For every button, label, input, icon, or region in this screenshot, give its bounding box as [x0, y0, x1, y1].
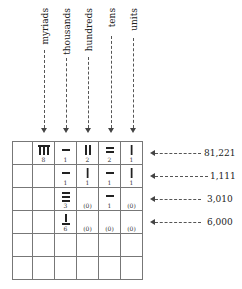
dashed-line	[66, 58, 67, 128]
grid-cell	[77, 234, 99, 257]
column-label-hundreds: hundreds	[84, 8, 94, 51]
grid-cell-units: 1	[121, 165, 143, 188]
grid-cell	[13, 257, 33, 280]
grid-cell-tens: 1	[99, 188, 121, 211]
rod-numeral-1-vertical-icon	[130, 168, 133, 178]
rod-numeral-8-icon	[38, 145, 50, 155]
digit-label: 8	[33, 157, 54, 163]
dashed-line	[111, 36, 112, 128]
grid-cell-myriads	[33, 188, 55, 211]
column-label-tens: tens	[107, 8, 117, 27]
grid-cell	[33, 257, 55, 280]
grid-cell	[99, 234, 121, 257]
rod-numeral-2-horizontal-icon	[106, 145, 114, 155]
grid-cell-units: (0)	[121, 188, 143, 211]
grid-cell	[77, 257, 99, 280]
column-label-thousands: thousands	[62, 8, 72, 55]
row-value-label: 81,221	[204, 148, 236, 158]
digit-label: (0)	[77, 226, 98, 232]
rod-numeral-1-vertical-icon	[130, 145, 133, 155]
digit-label: (0)	[99, 226, 120, 232]
grid-cell-hundreds: 1	[77, 165, 99, 188]
counting-board-grid: 8 1 2 2 1	[12, 141, 143, 280]
grid-row: 3 (0) 1 (0)	[13, 188, 143, 211]
grid-cell-tens: (0)	[99, 211, 121, 234]
grid-cell-thousands: 3	[55, 188, 77, 211]
digit-label: 3	[55, 203, 76, 209]
digit-label: 1	[99, 203, 120, 209]
rod-numeral-1-horizontal-icon	[106, 191, 114, 201]
digit-label: (0)	[121, 226, 142, 232]
digit-label: 1	[55, 157, 76, 163]
grid-cell	[13, 211, 33, 234]
grid-cell-thousands: 1	[55, 165, 77, 188]
grid-cell-myriads	[33, 211, 55, 234]
dashed-line	[44, 50, 45, 128]
rod-numeral-6-icon	[62, 214, 70, 225]
grid-cell	[121, 234, 143, 257]
rod-numeral-3-horizontal-icon	[62, 191, 70, 202]
grid-cell-thousands: 1	[55, 142, 77, 165]
row-value-label: 3,010	[207, 194, 233, 204]
grid-cell-units: 1	[121, 142, 143, 165]
rod-numeral-1-horizontal-icon	[62, 145, 70, 155]
grid-cell-hundreds: 2	[77, 142, 99, 165]
grid-row: 1 1 1 1	[13, 165, 143, 188]
grid-cell	[99, 257, 121, 280]
grid-cell-hundreds: (0)	[77, 188, 99, 211]
digit-label: 1	[55, 180, 76, 186]
rod-numeral-2-vertical-icon	[85, 145, 91, 155]
grid-cell	[13, 142, 33, 165]
grid-cell	[55, 234, 77, 257]
digit-label: 1	[77, 180, 98, 186]
arrow-down-icon	[41, 128, 47, 133]
grid-cell-tens: 2	[99, 142, 121, 165]
grid-cell	[33, 234, 55, 257]
grid-cell	[13, 188, 33, 211]
rod-numeral-1-vertical-icon	[86, 168, 89, 178]
arrow-down-icon	[85, 128, 91, 133]
digit-label: 1	[121, 180, 142, 186]
dashed-line	[133, 38, 134, 128]
grid-cell-hundreds: (0)	[77, 211, 99, 234]
digit-label: 1	[121, 157, 142, 163]
arrow-down-icon	[130, 128, 136, 133]
grid-cell	[13, 234, 33, 257]
grid-cell	[13, 165, 33, 188]
dashed-line	[155, 199, 201, 200]
row-value-label: 1,111	[210, 171, 236, 181]
dashed-line	[88, 57, 89, 128]
grid-cell-units: (0)	[121, 211, 143, 234]
digit-label: 6	[55, 226, 76, 232]
dashed-line	[155, 176, 208, 177]
grid-row: 6 (0) (0) (0)	[13, 211, 143, 234]
grid-cell-myriads	[33, 165, 55, 188]
dashed-line	[155, 153, 201, 154]
column-label-myriads: myriads	[40, 8, 50, 45]
grid-row	[13, 257, 143, 280]
grid-cell-tens: 1	[99, 165, 121, 188]
digit-label: (0)	[77, 203, 98, 209]
grid-row: 8 1 2 2 1	[13, 142, 143, 165]
digit-label: 2	[99, 157, 120, 163]
grid-cell-thousands: 6	[55, 211, 77, 234]
rod-numeral-1-horizontal-icon	[62, 168, 70, 178]
digit-label: 2	[77, 157, 98, 163]
dashed-line	[155, 222, 201, 223]
digit-label: 1	[99, 180, 120, 186]
arrow-down-icon	[108, 128, 114, 133]
rod-numeral-1-horizontal-icon	[106, 168, 114, 178]
column-label-units: units	[129, 8, 139, 31]
grid-cell-myriads: 8	[33, 142, 55, 165]
arrow-down-icon	[63, 128, 69, 133]
grid-cell	[55, 257, 77, 280]
digit-label: (0)	[121, 203, 142, 209]
grid-cell	[121, 257, 143, 280]
row-value-label: 6,000	[207, 217, 233, 227]
grid-row	[13, 234, 143, 257]
